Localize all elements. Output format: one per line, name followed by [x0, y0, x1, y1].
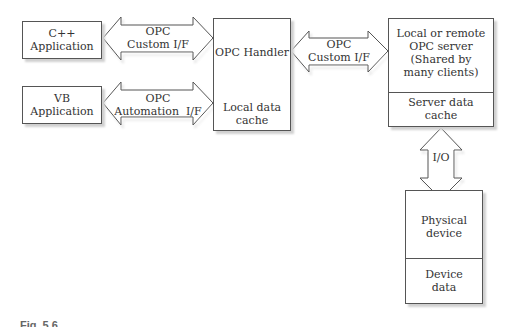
server-custom-if-label: OPC Custom I/F — [305, 38, 373, 64]
automation-if-label: OPC Automation I/F — [110, 92, 206, 118]
local-data-cache-label: Local data cache — [213, 101, 291, 127]
io-label: I/O — [426, 151, 456, 164]
opc-handler-label: OPC Handler — [213, 46, 291, 59]
vb-application-label: VB Application — [22, 92, 102, 118]
device-divider — [405, 258, 483, 259]
device-data-label: Device data — [405, 268, 483, 294]
physical-device-label: Physical device — [405, 214, 483, 240]
cpp-application-label: C++ Application — [22, 27, 102, 53]
opc-server-label: Local or remote OPC server (Shared by ma… — [388, 27, 494, 79]
figure-caption: Fig. 5.6 — [20, 318, 58, 327]
custom-if-label: OPC Custom I/F — [118, 25, 198, 51]
server-divider — [388, 92, 494, 93]
server-data-cache-label: Server data cache — [388, 96, 494, 122]
